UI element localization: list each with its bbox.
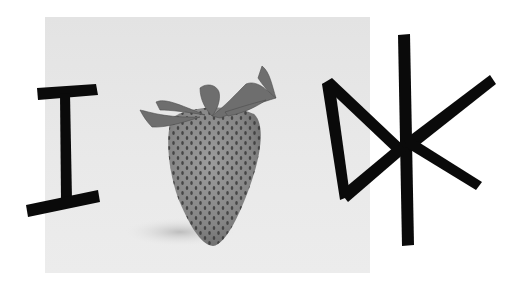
- artwork: [0, 0, 523, 287]
- letters-dk-glyph: [322, 34, 496, 246]
- letter-i-glyph: [26, 84, 100, 217]
